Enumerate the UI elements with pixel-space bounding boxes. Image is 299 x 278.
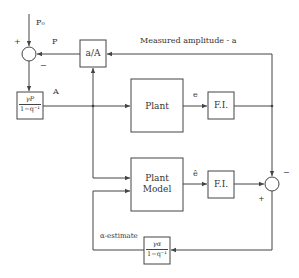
plant-model-line2: Model xyxy=(143,184,172,194)
label-p: P xyxy=(52,38,57,46)
left-sum-junction xyxy=(22,47,36,61)
gain-p-denominator: 1−q⁻¹ xyxy=(19,105,41,113)
label-p0: P₀ xyxy=(36,19,45,27)
label-measured-amplitude: Measured amplitude - a xyxy=(140,37,237,45)
fi-top-block-label: F.I. xyxy=(208,100,234,111)
label-left-minus: − xyxy=(40,62,47,70)
label-left-plus: + xyxy=(14,38,21,46)
fi-bottom-block-label: F.I. xyxy=(208,179,234,190)
label-e: e xyxy=(193,91,198,99)
gain-alpha-numerator: γα xyxy=(146,241,168,250)
plant-model-block-label: Plant Model xyxy=(131,173,183,196)
label-right-minus: − xyxy=(283,169,290,177)
plant-model-line1: Plant xyxy=(145,173,169,183)
ratio-block-label: a/A xyxy=(80,48,106,59)
label-e-hat: ê xyxy=(193,170,198,178)
right-sum-junction xyxy=(265,177,279,191)
label-alpha-estimate: α-estimate xyxy=(100,233,138,240)
plant-block-label: Plant xyxy=(131,101,183,112)
label-a-big: A xyxy=(53,88,59,96)
gain-alpha-denominator: 1−q⁻¹ xyxy=(146,250,168,258)
label-right-plus: + xyxy=(258,195,265,203)
gain-p-numerator: γP xyxy=(19,96,41,105)
gain-p-fraction: γP 1−q⁻¹ xyxy=(19,96,41,112)
gain-alpha-fraction: γα 1−q⁻¹ xyxy=(146,241,168,257)
